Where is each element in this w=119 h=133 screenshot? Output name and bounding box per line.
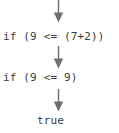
evaluation-trace-diagram: if (9 <= (7+2)) if (9 <= 9) true: [0, 0, 119, 133]
down-arrow-icon: [53, 46, 64, 69]
down-arrow-icon: [53, 89, 64, 112]
trace-step-2: if (9 <= 9): [3, 71, 78, 84]
down-arrow-icon: [53, 0, 64, 23]
trace-step-3: true: [37, 114, 64, 127]
trace-step-1: if (9 <= (7+2)): [3, 30, 105, 43]
